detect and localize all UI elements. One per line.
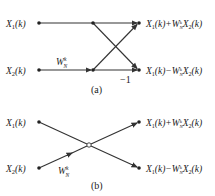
edge-cross-down-a [93,23,137,69]
node-out2-b [137,166,141,170]
node-in1-b [37,120,41,124]
input-x1-label-a: X1(k) [5,19,26,30]
butterfly-b: X1(k) X2(k) WkN X1(k)+WkNX2(k) X1(k)−WkN… [5,118,202,192]
butterfly-diagrams: X1(k) X2(k) WkN −1 X1(k)+WkNX2(k) X1(k)−… [0,0,215,196]
edge-center-to-sum-b [91,123,137,144]
node-in2-a [37,68,41,72]
minus-one-label: −1 [120,74,131,85]
input-x1-label-b: X1(k) [5,118,26,129]
edge-x2-to-center-b [72,146,87,153]
node-in2-b [37,166,41,170]
node-center-b [87,143,91,147]
node-mid1-a [91,21,95,25]
node-in1-a [37,21,41,25]
butterfly-a: X1(k) X2(k) WkN −1 X1(k)+WkNX2(k) X1(k)−… [5,19,202,96]
caption-b: (b) [91,180,103,192]
twiddle-label-a: WkN [56,56,67,69]
output-sum-label-b: X1(k)+WkNX2(k) [145,118,202,129]
output-sum-label-a: X1(k)+WkNX2(k) [145,19,202,30]
output-diff-label-b: X1(k)−WkNX2(k) [145,164,202,175]
edge-center-to-diff-b [91,146,137,167]
node-mid2-a [91,68,95,72]
node-out1-b [137,120,141,124]
edge-x1-to-center-b [39,122,87,144]
edge-cross-up-a [93,25,137,71]
input-x2-label-b: X2(k) [5,164,26,175]
caption-a: (a) [91,84,102,96]
output-diff-label-a: X1(k)−WkNX2(k) [145,66,202,77]
input-x2-label-a: X2(k) [5,66,26,77]
node-out2-a [137,68,141,72]
node-out1-a [137,21,141,25]
twiddle-label-b: WkN [58,165,69,178]
